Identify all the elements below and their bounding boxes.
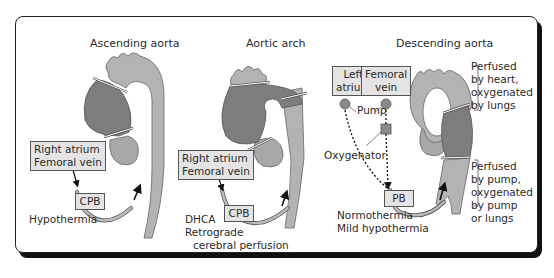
note-normothermia: Normothermia [337,209,413,222]
source-label-line: Femoral vein [34,156,102,169]
cpb-box: CPB [224,205,254,222]
bracket-line: or lungs [471,212,533,225]
bracket-line: oxygenated [471,186,533,199]
source-box-right-atrium-femoral-vein: Right atrium Femoral vein [30,141,106,171]
note-mild-hypothermia: Mild hypothermia [337,222,429,235]
panel-title-aortic-arch: Aortic arch [246,37,306,50]
bracket-line: by lungs [471,99,533,112]
bracket-label-perfused-by-pump: Perfused by pump, oxygenated by pump or … [471,160,533,225]
source-box-right-atrium-femoral-vein: Right atrium Femoral vein [178,150,254,180]
bracket-label-perfused-by-heart: Perfused by heart, oxygenated by lungs [471,60,533,112]
aortic-arch-illustration [218,66,307,228]
source-box-femoral-vein: Femoral vein [361,66,411,96]
bracket-line: by heart, [471,73,533,86]
source-label-line: Femoral [365,68,407,81]
bracket-line: by pump [471,199,533,212]
source-label-line: Femoral vein [182,165,250,178]
source-label-line: Right atrium [182,152,250,165]
panel-title-ascending-aorta: Ascending aorta [90,37,180,50]
bracket-line: by pump, [471,173,533,186]
pb-box: PB [384,190,414,207]
source-label-line: Right atrium [34,143,102,156]
note-cerebral-perfusion: cerebral perfusion [193,239,289,252]
note-hypothermia: Hypothermia [29,213,97,226]
note-retrograde: Retrograde [185,226,243,239]
bracket-line: oxygenated [471,86,533,99]
pump-label: Pump [357,104,387,117]
oxygenator-label: Oxygenator [324,149,386,162]
bracket-line: Perfused [471,160,533,173]
note-dhca: DHCA [185,213,216,226]
panel-title-descending-aorta: Descending aorta [396,37,493,50]
source-label-line: vein [365,81,407,94]
cpb-box: CPB [75,193,105,210]
bracket-line: Perfused [471,60,533,73]
